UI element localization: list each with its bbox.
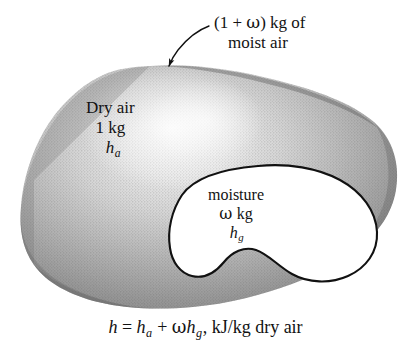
callout-label: (1 + ω) kg of moist air [214,12,305,53]
moisture-omega: ω [219,204,232,223]
equation-term2-symbol: h [187,317,196,337]
moisture-enthalpy: hg [208,224,264,244]
equation-term2-subscript: g [196,326,203,340]
equation-term1-symbol: h [137,317,146,337]
dry-air-enthalpy: ha [86,138,135,160]
moisture-enthalpy-subscript: g [238,231,244,243]
equation-omega: ω [172,316,187,337]
enthalpy-equation: h = ha + ωhg, kJ/kg dry air [0,316,411,340]
callout-arrow [169,26,209,66]
equation-term1-subscript: a [146,326,153,340]
dry-air-label: Dry air 1 kg ha [86,98,135,160]
dry-air-blob [0,0,411,347]
equation-tail: , kJ/kg dry air [203,317,303,337]
moisture-label: moisture ω kg hg [208,186,264,244]
callout-line2: moist air [214,33,305,53]
moisture-line2: ω kg [208,205,264,224]
callout-line1-close: ) kg of [260,13,305,32]
moist-air-figure [0,0,411,347]
moisture-line1: moisture [208,186,264,203]
dry-air-line2: 1 kg [86,118,135,138]
equation-plus: + [153,317,172,337]
dry-air-line1: Dry air [86,98,135,117]
omega-symbol: ω [246,12,260,32]
callout-line1-open: (1 + [214,13,246,32]
dry-air-enthalpy-symbol: h [106,138,115,157]
equation-equals: = [117,317,136,337]
moisture-unit: kg [237,205,253,222]
moisture-enthalpy-symbol: h [230,224,238,241]
dry-air-enthalpy-subscript: a [114,147,121,160]
